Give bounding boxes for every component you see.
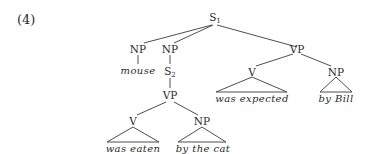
triangle-by-bill xyxy=(320,77,352,92)
word-was-eaten: was eaten xyxy=(106,144,161,154)
node-np-lower: NP xyxy=(194,116,210,127)
node-v-upper: V xyxy=(248,67,256,78)
word-by-the-cat: by the cat xyxy=(176,144,230,154)
triangle-was-expected xyxy=(216,77,287,92)
node-s1: S1 xyxy=(209,12,221,25)
edge-s1-vp-upper xyxy=(217,25,297,47)
edge-s1-np-s2 xyxy=(174,25,213,43)
node-v-lower: V xyxy=(129,116,137,127)
edge-s1-np-mouse xyxy=(144,25,212,43)
node-s2: S2 xyxy=(164,66,176,79)
word-by-bill: by Bill xyxy=(319,94,354,104)
node-np-upper: NP xyxy=(328,67,344,78)
edge-vp-np-lower xyxy=(174,102,198,115)
triangle-by-the-cat xyxy=(178,127,226,142)
edge-vp-np-upper xyxy=(301,54,331,66)
tree-edges xyxy=(0,0,371,154)
word-was-expected: was expected xyxy=(215,94,288,104)
node-np-mouse: NP xyxy=(130,44,146,55)
triangle-was-eaten xyxy=(107,127,159,142)
edge-vp-v-upper xyxy=(256,54,293,66)
word-mouse: mouse xyxy=(121,66,156,76)
node-vp-upper: VP xyxy=(290,44,305,55)
node-vp-lower: VP xyxy=(163,90,178,101)
node-np-s2: NP xyxy=(162,44,178,55)
edge-vp-v-lower xyxy=(137,102,166,115)
